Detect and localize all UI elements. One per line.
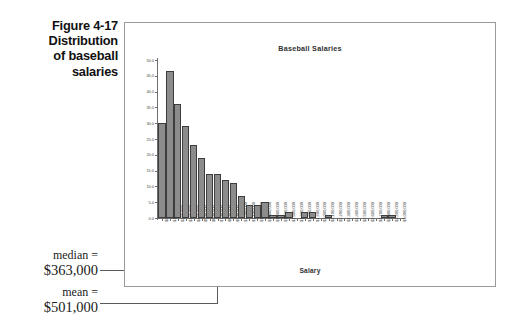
figure-caption-line-2: Distribution — [6, 33, 118, 48]
x-axis-tick — [313, 218, 314, 221]
y-axis-label: 45.0 — [136, 73, 154, 78]
x-axis-tick — [178, 218, 179, 221]
x-axis-label: $1,400,000 — [275, 202, 280, 222]
x-axis-label: $3,000,000 — [402, 202, 407, 222]
y-axis-label: 10.0 — [136, 184, 154, 189]
x-axis-tick — [297, 218, 298, 221]
y-axis-tick — [155, 218, 158, 219]
x-axis-label: $2,800,000 — [386, 202, 391, 222]
x-axis-label: $1,300,000 — [267, 202, 272, 222]
x-axis-tick — [162, 218, 163, 221]
mean-annotation: mean = $501,000 — [12, 285, 98, 315]
x-axis-label: $2,200,000 — [338, 202, 343, 222]
median-annotation: median = $363,000 — [12, 248, 98, 278]
x-axis-label: $2,000,000 — [322, 202, 327, 222]
x-axis-label: $2,100,000 — [330, 202, 335, 222]
x-axis-tick — [170, 218, 171, 221]
x-axis-label: $2,300,000 — [346, 202, 351, 222]
y-axis-tick — [155, 92, 158, 93]
x-axis-tick — [392, 218, 393, 221]
x-axis-label: $0 — [164, 218, 169, 222]
y-axis-label: 0.0 — [136, 216, 154, 221]
x-axis-tick — [400, 218, 401, 221]
y-axis-label: 15.0 — [136, 168, 154, 173]
x-axis-tick — [384, 218, 385, 221]
histogram-bar — [174, 104, 181, 218]
y-axis-label: 30.0 — [136, 121, 154, 126]
y-axis-tick — [155, 60, 158, 61]
figure-caption-line-1: Figure 4-17 — [6, 18, 118, 33]
chart-title: Baseball Salaries — [124, 44, 496, 53]
x-axis-label: $2,700,000 — [378, 202, 383, 222]
y-axis-label: 25.0 — [136, 137, 154, 142]
y-axis-label: 40.0 — [136, 89, 154, 94]
figure-caption: Figure 4-17 Distribution of baseball sal… — [6, 18, 118, 79]
median-annotation-value: $363,000 — [12, 262, 98, 278]
x-axis-tick — [281, 218, 282, 221]
y-axis-label: 5.0 — [136, 200, 154, 205]
y-axis-tick — [155, 107, 158, 108]
y-axis-tick — [155, 76, 158, 77]
x-axis-tick — [265, 218, 266, 221]
x-axis-tick — [305, 218, 306, 221]
x-axis-title: Salary — [124, 267, 496, 274]
histogram-bar — [166, 71, 173, 218]
histogram-bar — [158, 123, 165, 218]
mean-annotation-value: $501,000 — [12, 299, 98, 315]
x-axis-label: $1,900,000 — [315, 202, 320, 222]
median-annotation-label: median = — [12, 248, 98, 262]
y-axis-label: 50.0 — [136, 58, 154, 63]
x-axis-label: $2,500,000 — [362, 202, 367, 222]
figure-container: Figure 4-17 Distribution of baseball sal… — [0, 0, 517, 330]
figure-caption-line-3: of baseball — [6, 48, 118, 63]
x-axis-tick — [186, 218, 187, 221]
x-axis-label: $2,400,000 — [354, 202, 359, 222]
x-axis-tick — [273, 218, 274, 221]
x-axis-tick — [289, 218, 290, 221]
figure-caption-line-4: salaries — [6, 64, 118, 79]
y-axis-label: 35.0 — [136, 105, 154, 110]
x-axis-label: $2,600,000 — [370, 202, 375, 222]
mean-leader-horizontal — [100, 303, 218, 304]
x-axis-tick — [194, 218, 195, 221]
mean-annotation-label: mean = — [12, 285, 98, 299]
x-axis-label: $2,900,000 — [394, 202, 399, 222]
x-axis-label: $1,600,000 — [291, 202, 296, 222]
y-axis-label: 20.0 — [136, 152, 154, 157]
